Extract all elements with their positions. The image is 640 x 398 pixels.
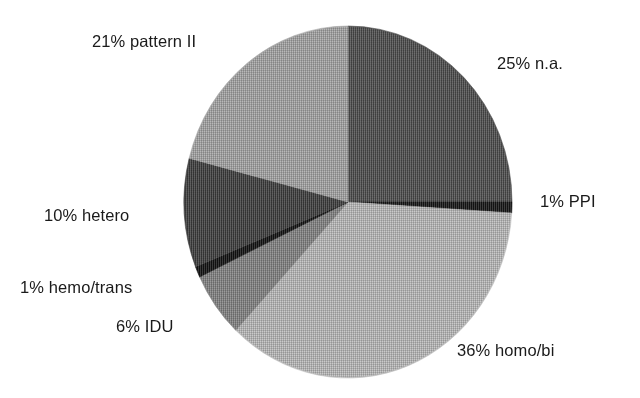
slice-label-ppi: 1% PPI	[540, 193, 596, 210]
pie-chart-figure: 21% pattern II 25% n.a. 1% PPI 10% heter…	[0, 0, 640, 398]
slice-label-hemo-trans: 1% hemo/trans	[20, 279, 132, 296]
pie-slice-n-a-	[348, 26, 512, 202]
slice-label-pattern-ii: 21% pattern II	[92, 33, 196, 50]
slice-label-hetero: 10% hetero	[44, 207, 129, 224]
slice-label-idu: 6% IDU	[116, 318, 173, 335]
slice-label-na: 25% n.a.	[497, 55, 563, 72]
slice-label-homo-bi: 36% homo/bi	[457, 342, 554, 359]
